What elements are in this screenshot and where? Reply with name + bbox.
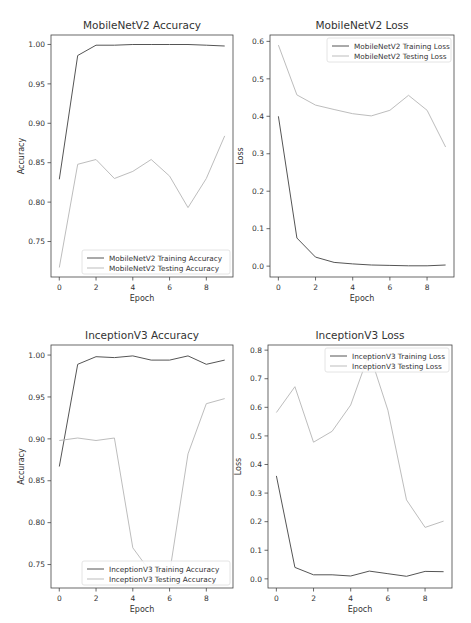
y-tick-label: 0.85 bbox=[28, 476, 45, 485]
training-line bbox=[276, 476, 443, 576]
x-tick-label: 2 bbox=[94, 283, 99, 292]
legend-label: InceptionV3 Training Accuracy bbox=[109, 565, 220, 574]
y-axis-label: Accuracy bbox=[17, 137, 26, 174]
x-tick-label: 8 bbox=[425, 283, 430, 292]
figure-canvas: MobileNetV2 Accuracy Epoch Accuracy 0246… bbox=[0, 0, 471, 623]
legend-label: MobileNetV2 Training Loss bbox=[354, 42, 450, 51]
legend: InceptionV3 Training LossInceptionV3 Tes… bbox=[325, 348, 449, 372]
y-axis-label: Loss bbox=[234, 458, 243, 476]
y-tick-label: 0.75 bbox=[28, 237, 45, 246]
y-tick-label: 0.8 bbox=[250, 346, 262, 355]
legend-label: MobileNetV2 Testing Loss bbox=[354, 52, 447, 61]
legend-label: InceptionV3 Testing Loss bbox=[352, 362, 442, 371]
legend: InceptionV3 Training AccuracyInceptionV3… bbox=[82, 561, 230, 585]
x-tick-label: 8 bbox=[423, 594, 428, 603]
y-axis-label: Loss bbox=[236, 147, 245, 165]
legend-label: MobileNetV2 Testing Accuracy bbox=[109, 264, 220, 273]
y-tick-label: 0.80 bbox=[28, 518, 45, 527]
y-tick-label: 0.6 bbox=[250, 403, 262, 412]
x-tick-label: 8 bbox=[204, 283, 209, 292]
y-tick-label: 0.90 bbox=[28, 119, 45, 128]
x-tick-label: 6 bbox=[385, 594, 390, 603]
axes-frame bbox=[270, 35, 454, 277]
x-tick-label: 0 bbox=[276, 283, 281, 292]
training-line bbox=[59, 356, 224, 467]
x-tick-label: 4 bbox=[130, 283, 135, 292]
y-tick-label: 0.5 bbox=[252, 75, 264, 84]
x-tick-label: 8 bbox=[204, 594, 209, 603]
chart-title: MobileNetV2 Accuracy bbox=[83, 19, 201, 31]
training-curves-figure: MobileNetV2 Accuracy Epoch Accuracy 0246… bbox=[0, 0, 471, 623]
y-axis-label: Accuracy bbox=[17, 448, 26, 485]
y-tick-label: 0.2 bbox=[250, 517, 262, 526]
y-tick-label: 0.1 bbox=[250, 546, 262, 555]
x-tick-label: 6 bbox=[167, 594, 172, 603]
y-tick-label: 0.4 bbox=[252, 112, 264, 121]
y-tick-label: 1.00 bbox=[28, 351, 45, 360]
testing-line bbox=[59, 136, 224, 268]
chart-inception-loss: InceptionV3 Loss Epoch Loss 024680.00.10… bbox=[234, 329, 452, 614]
legend-label: InceptionV3 Testing Accuracy bbox=[109, 575, 217, 584]
y-tick-label: 0.0 bbox=[252, 262, 264, 271]
y-tick-label: 0.5 bbox=[250, 432, 262, 441]
chart-inception-accuracy: InceptionV3 Accuracy Epoch Accuracy 0246… bbox=[17, 329, 233, 614]
legend-label: MobileNetV2 Training Accuracy bbox=[109, 254, 223, 263]
y-tick-label: 0.4 bbox=[250, 460, 262, 469]
x-tick-label: 2 bbox=[313, 283, 318, 292]
y-tick-label: 0.95 bbox=[28, 393, 45, 402]
chart-title: InceptionV3 Accuracy bbox=[85, 329, 199, 341]
y-tick-label: 0.85 bbox=[28, 158, 45, 167]
chart-mobilenet-accuracy: MobileNetV2 Accuracy Epoch Accuracy 0246… bbox=[17, 19, 233, 303]
axes-frame bbox=[268, 345, 452, 588]
axes-frame bbox=[51, 35, 233, 277]
chart-title: InceptionV3 Loss bbox=[316, 329, 405, 341]
plot-area bbox=[59, 45, 224, 268]
y-tick-label: 0.75 bbox=[28, 560, 45, 569]
y-tick-label: 0.1 bbox=[252, 224, 264, 233]
y-tick-label: 0.95 bbox=[28, 80, 45, 89]
axes-frame bbox=[51, 345, 233, 588]
legend-label: InceptionV3 Training Loss bbox=[352, 352, 445, 361]
x-tick-label: 4 bbox=[348, 594, 353, 603]
training-line bbox=[278, 116, 445, 265]
chart-mobilenet-loss: MobileNetV2 Loss Epoch Loss 024680.00.10… bbox=[236, 19, 454, 303]
x-tick-label: 6 bbox=[387, 283, 392, 292]
x-tick-label: 0 bbox=[274, 594, 279, 603]
x-tick-label: 6 bbox=[167, 283, 172, 292]
y-tick-label: 0.7 bbox=[250, 374, 262, 383]
x-tick-label: 4 bbox=[350, 283, 355, 292]
training-line bbox=[59, 45, 224, 180]
y-tick-label: 0.3 bbox=[250, 489, 262, 498]
x-tick-label: 0 bbox=[57, 594, 62, 603]
x-tick-label: 2 bbox=[94, 594, 99, 603]
legend: MobileNetV2 Training AccuracyMobileNetV2… bbox=[82, 250, 230, 274]
y-tick-label: 0.0 bbox=[250, 575, 262, 584]
x-axis-label: Epoch bbox=[350, 294, 375, 303]
y-tick-label: 0.3 bbox=[252, 149, 264, 158]
x-tick-label: 0 bbox=[57, 283, 62, 292]
x-axis-label: Epoch bbox=[130, 294, 155, 303]
y-tick-label: 0.2 bbox=[252, 187, 264, 196]
y-tick-label: 0.90 bbox=[28, 435, 45, 444]
x-tick-label: 4 bbox=[130, 594, 135, 603]
x-tick-label: 2 bbox=[311, 594, 316, 603]
y-tick-label: 0.80 bbox=[28, 198, 45, 207]
plot-area bbox=[59, 356, 224, 573]
x-axis-label: Epoch bbox=[348, 605, 373, 614]
plot-area bbox=[276, 353, 443, 576]
testing-line bbox=[59, 399, 224, 573]
legend: MobileNetV2 Training LossMobileNetV2 Tes… bbox=[327, 38, 451, 62]
plot-area bbox=[278, 45, 445, 266]
testing-line bbox=[276, 353, 443, 527]
y-tick-label: 1.00 bbox=[28, 40, 45, 49]
y-tick-label: 0.6 bbox=[252, 37, 264, 46]
chart-title: MobileNetV2 Loss bbox=[315, 19, 408, 31]
x-axis-label: Epoch bbox=[130, 605, 155, 614]
